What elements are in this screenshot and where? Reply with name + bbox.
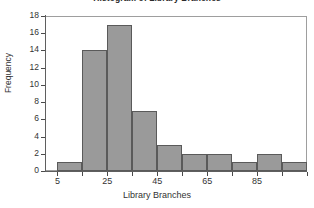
x-axis-label: Library Branches — [0, 190, 314, 200]
histogram-bar — [157, 145, 182, 171]
y-axis-tick-label: 8 — [13, 97, 39, 106]
y-axis-tick-label: 6 — [13, 114, 39, 123]
histogram-bar — [207, 154, 232, 171]
x-axis-tick-label: 65 — [192, 177, 222, 187]
histogram-bar — [232, 162, 257, 171]
histogram-bar — [132, 111, 157, 171]
x-axis-tick — [132, 172, 133, 176]
x-axis-tick-label: 25 — [92, 177, 122, 187]
x-axis-tick — [82, 172, 83, 176]
y-axis-tick-label: 0 — [13, 166, 39, 175]
y-axis-tick — [41, 171, 45, 172]
y-axis-tick-label: 16 — [13, 28, 39, 37]
bars-group — [45, 16, 307, 171]
y-axis-tick-label: 12 — [13, 63, 39, 72]
histogram-bar — [282, 162, 307, 171]
x-axis-tick-label: 5 — [42, 177, 72, 187]
chart-title: Histogram of Library Branches — [0, 0, 314, 3]
x-axis-spine — [45, 171, 307, 172]
histogram-bar — [257, 154, 282, 171]
x-axis-tick — [182, 172, 183, 176]
histogram-bar — [57, 162, 82, 171]
histogram-bar — [182, 154, 207, 171]
histogram-figure: Histogram of Library Branches Frequency … — [0, 0, 314, 208]
y-axis-tick-label: 4 — [13, 132, 39, 141]
x-axis-tick-label: 85 — [242, 177, 272, 187]
x-axis-tick — [307, 172, 308, 176]
x-axis-tick — [232, 172, 233, 176]
y-axis-tick-label: 14 — [13, 45, 39, 54]
y-axis-tick-label: 2 — [13, 149, 39, 158]
x-axis-tick — [282, 172, 283, 176]
histogram-bar — [107, 25, 132, 171]
histogram-bar — [82, 50, 107, 171]
y-axis-tick-label: 10 — [13, 80, 39, 89]
x-axis-tick-label: 45 — [142, 177, 172, 187]
y-axis-tick-label: 18 — [13, 11, 39, 20]
